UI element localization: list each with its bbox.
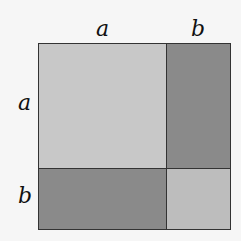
label-left-a: a [18,92,31,114]
region-ab-top-right [166,43,231,169]
region-ab-bottom-left [38,168,167,230]
region-b-squared [166,168,231,230]
label-left-b: b [18,185,32,207]
region-a-squared [38,43,167,169]
label-top-a: a [96,18,109,40]
label-top-b: b [191,18,205,40]
